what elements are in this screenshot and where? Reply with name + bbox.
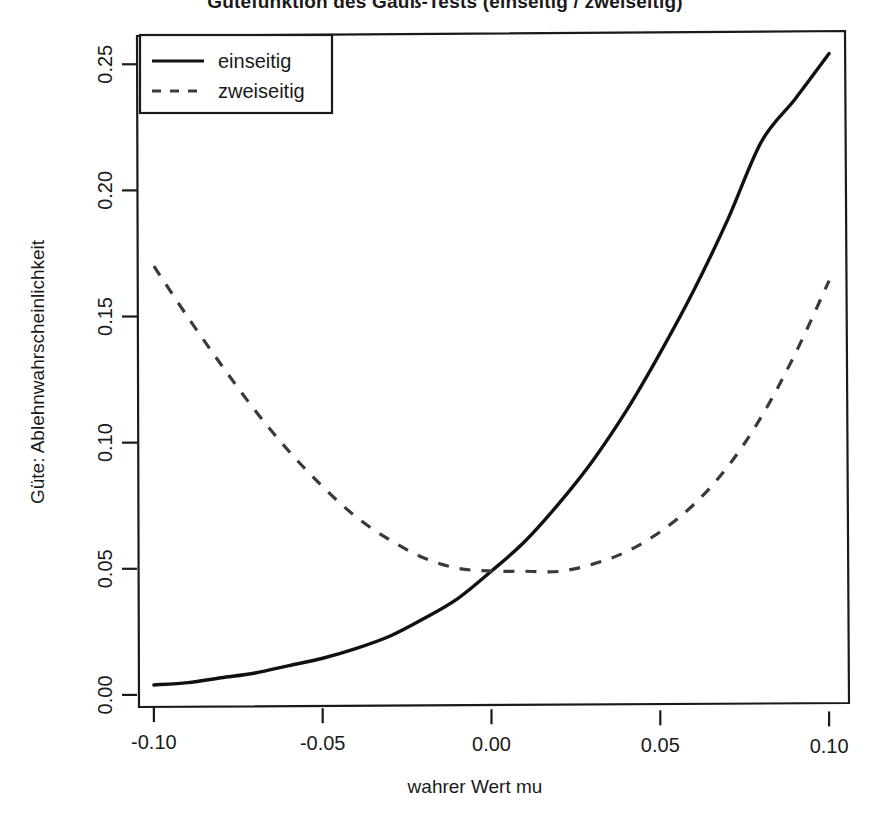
x-tick-label: 0.00: [472, 733, 511, 755]
y-tick-label: 0.25: [94, 45, 116, 84]
y-tick-label: 0.20: [94, 171, 116, 210]
chart-figure: Gütefunktion des Gauß-Tests (einseitig /…: [0, 0, 890, 823]
plot-frame: [137, 31, 849, 707]
legend-label-zweiseitig[interactable]: zweiseitig: [218, 80, 305, 102]
x-tick-label: -0.10: [131, 731, 177, 753]
plot-canvas: -0.10-0.050.000.050.10 0.000.050.100.150…: [0, 0, 890, 823]
y-axis-tick-labels: 0.000.050.100.150.200.25: [94, 45, 116, 715]
axes-group: -0.10-0.050.000.050.10 0.000.050.100.150…: [94, 31, 849, 757]
x-tick-label: 0.10: [810, 735, 849, 757]
data-series-group: [154, 54, 829, 685]
x-axis-ticks: [154, 707, 829, 726]
y-tick-label: 0.00: [94, 675, 116, 714]
series-line-zweiseitig: [154, 266, 829, 572]
y-axis-ticks: [122, 64, 137, 695]
y-tick-label: 0.05: [94, 549, 116, 588]
x-axis-title: wahrer Wert mu: [407, 776, 543, 797]
y-tick-label: 0.10: [94, 423, 116, 462]
x-tick-label: -0.05: [300, 732, 346, 754]
x-tick-label: 0.05: [641, 734, 680, 756]
y-tick-label: 0.15: [94, 297, 116, 336]
y-axis-title: Güte: Ablehnwahrscheinlichkeit: [27, 239, 48, 504]
legend-label-einseitig[interactable]: einseitig: [218, 50, 291, 72]
series-line-einseitig: [154, 54, 829, 685]
x-axis-tick-labels: -0.10-0.050.000.050.10: [131, 731, 849, 757]
chart-legend: einseitigzweiseitig: [140, 35, 332, 113]
